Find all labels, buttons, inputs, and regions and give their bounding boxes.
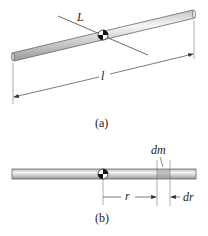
caption-a: (a) (95, 116, 108, 130)
length-dimension-line-left (14, 77, 99, 97)
radius-label-r: r (125, 189, 130, 203)
length-label-l: l (101, 69, 105, 83)
mass-element-label-dm: dm (151, 143, 166, 157)
axis-label-L: L (76, 10, 84, 24)
rotation-axis-line-front (106, 37, 148, 55)
length-dimension-line-right (110, 54, 193, 74)
caption-b: (b) (95, 211, 109, 225)
dm-leader-line (160, 157, 163, 167)
center-of-mass-icon-b (98, 169, 108, 179)
figure-a: L l (a) (11, 10, 195, 130)
rod-moment-of-inertia-diagram: L l (a) dm r dr (b) (0, 0, 208, 236)
mass-element-dm (157, 170, 170, 179)
width-label-dr: dr (183, 190, 194, 204)
figure-b: dm r dr (b) (12, 143, 196, 225)
center-of-mass-icon (98, 30, 108, 40)
